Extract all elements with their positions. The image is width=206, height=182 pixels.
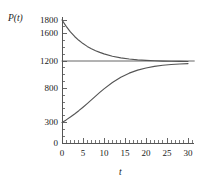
y-tick-label: 1800 [24, 16, 58, 25]
x-tick-label: 25 [157, 149, 177, 158]
chart-figure: P(t) t 0300800120016001800 051015202530 [0, 0, 206, 182]
series-upper-solution [62, 20, 188, 61]
y-tick-label: 1200 [24, 57, 58, 66]
x-tick-label: 10 [94, 149, 114, 158]
x-tick-label: 20 [136, 149, 156, 158]
y-tick-label: 300 [24, 118, 58, 127]
x-tick-label: 30 [178, 149, 198, 158]
y-tick-label: 800 [24, 84, 58, 93]
y-axis-label: P(t) [8, 14, 23, 24]
y-tick-label: 0 [24, 139, 58, 148]
x-tick-label: 15 [115, 149, 135, 158]
x-axis-label: t [119, 168, 122, 178]
y-tick-label: 1600 [24, 29, 58, 38]
x-tick-label: 0 [52, 149, 72, 158]
x-tick-label: 5 [73, 149, 93, 158]
series-lower-solution [62, 64, 188, 123]
